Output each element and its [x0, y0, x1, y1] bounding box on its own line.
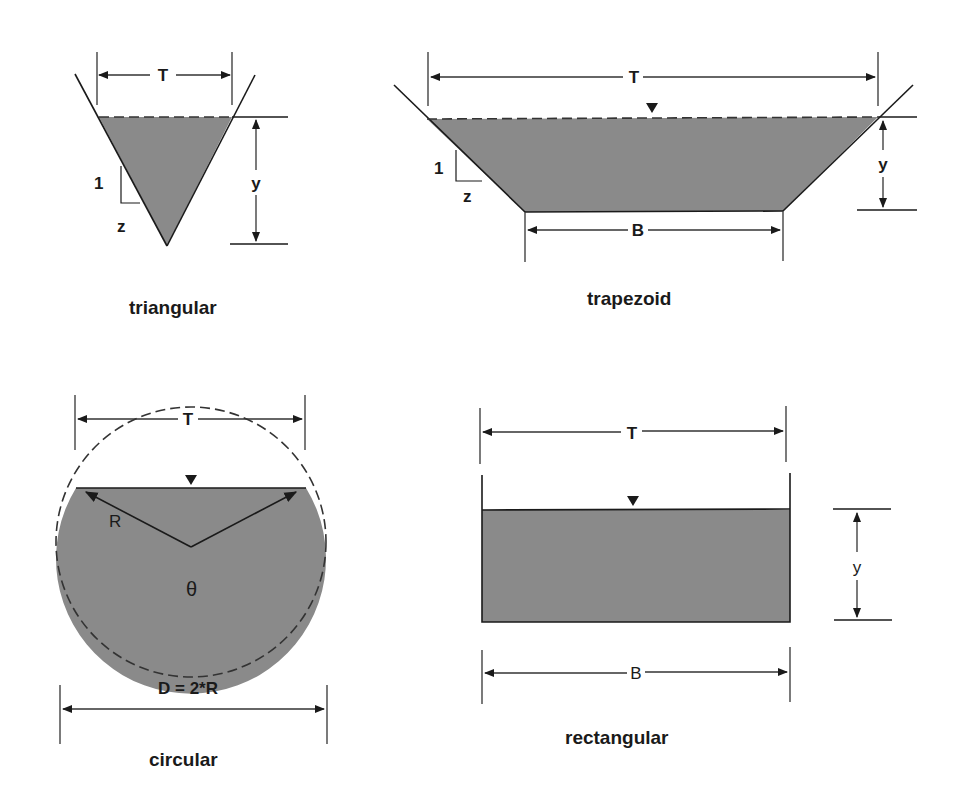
triangular-caption: triangular: [129, 297, 217, 318]
triangular-slope-1-label: 1: [94, 174, 103, 193]
rectangular-water-area: [482, 510, 790, 622]
trapezoid-B-label: B: [632, 221, 644, 240]
rectangular-water-surface: [482, 509, 790, 510]
trapezoid-water-level-marker-icon: [646, 103, 658, 113]
trapezoid-diagram: T B y 1 z trapezoid: [394, 52, 917, 309]
triangular-diagram: T y 1 z triangular: [75, 52, 288, 318]
rectangular-y-label: y: [853, 558, 862, 577]
rectangular-diagram: T B y rectangular: [480, 406, 892, 748]
triangular-slope-z-label: z: [117, 217, 126, 236]
circular-water-level-marker-icon: [185, 475, 197, 485]
triangular-y-label: y: [251, 174, 261, 193]
rectangular-water-level-marker-icon: [627, 496, 639, 506]
trapezoid-water-area: [427, 117, 878, 212]
trapezoid-caption: trapezoid: [587, 288, 671, 309]
circular-caption: circular: [149, 749, 218, 770]
circular-diagram: R θ T D = 2*R circular: [56, 395, 327, 770]
rectangular-B-label: B: [630, 664, 641, 683]
circular-T-label: T: [183, 410, 194, 429]
trapezoid-slope-z-label: z: [463, 187, 472, 206]
triangular-T-label: T: [158, 66, 169, 85]
rectangular-T-label: T: [627, 424, 638, 443]
circular-diameter-label: D = 2*R: [158, 679, 218, 698]
circular-theta-label: θ: [186, 578, 197, 600]
channel-sections-figure: T y 1 z triangular T B y: [0, 0, 953, 811]
trapezoid-T-label: T: [629, 68, 640, 87]
trapezoid-slope-1-label: 1: [434, 159, 443, 178]
trapezoid-y-label: y: [878, 155, 888, 174]
rectangular-caption: rectangular: [565, 727, 669, 748]
trapezoid-bed: [525, 211, 783, 212]
circular-R-label: R: [109, 512, 121, 531]
